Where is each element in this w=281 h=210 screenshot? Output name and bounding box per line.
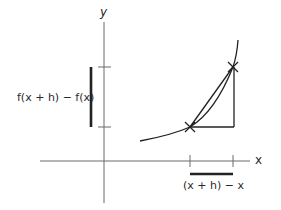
x-axis-label: x (255, 153, 262, 167)
vertical-difference-label: f(x + h) − f(x) (17, 91, 94, 104)
secant-line (190, 67, 233, 127)
point-marker-upper (228, 62, 238, 72)
y-axis-label: y (100, 5, 107, 19)
horizontal-difference-label: (x + h) − x (183, 179, 244, 192)
